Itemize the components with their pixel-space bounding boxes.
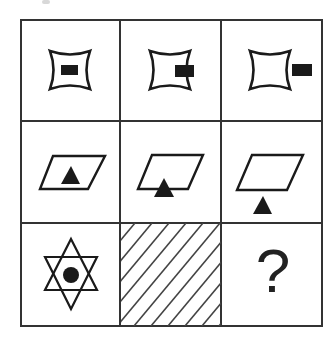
parallelogram-icon bbox=[138, 155, 203, 189]
parallelogram-icon bbox=[237, 155, 303, 190]
cell-r1c2 bbox=[150, 51, 194, 89]
filled-rectangle-icon bbox=[292, 64, 312, 76]
filled-circle-icon bbox=[63, 267, 79, 283]
filled-rectangle-icon bbox=[61, 65, 78, 75]
filled-triangle-icon bbox=[61, 166, 80, 184]
cell-r2c2 bbox=[138, 155, 203, 197]
filled-triangle-icon bbox=[154, 178, 174, 197]
concave-square-icon bbox=[250, 51, 290, 89]
cell-r1c1 bbox=[50, 51, 90, 89]
cell-r2c3 bbox=[237, 155, 303, 214]
filled-triangle-icon bbox=[253, 196, 272, 214]
cell-r1c3 bbox=[250, 51, 312, 89]
question-mark-cell: ? bbox=[252, 240, 294, 302]
cell-r3c1 bbox=[45, 239, 97, 309]
cell-r2c1 bbox=[40, 156, 105, 189]
filled-rectangle-icon bbox=[175, 65, 194, 77]
